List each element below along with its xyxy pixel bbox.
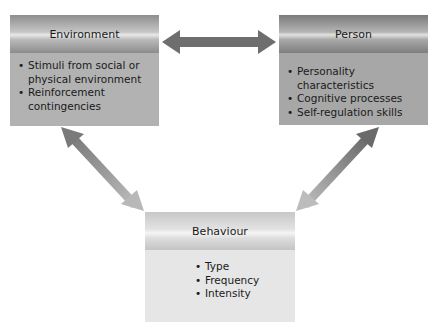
list-item: Stimuli from social or physical environm… bbox=[18, 59, 151, 86]
environment-box: Environment Stimuli from social or physi… bbox=[10, 15, 159, 126]
environment-title: Environment bbox=[10, 15, 159, 53]
behaviour-title: Behaviour bbox=[145, 212, 295, 250]
person-box: Person Personality characteristics Cogni… bbox=[279, 15, 428, 125]
list-item: Type bbox=[195, 260, 287, 274]
list-item: Frequency bbox=[195, 274, 287, 288]
behaviour-box: Behaviour Type Frequency Intensity bbox=[145, 212, 295, 322]
person-list: Personality characteristics Cognitive pr… bbox=[287, 65, 420, 119]
list-item: Cognitive processes bbox=[287, 92, 420, 106]
environment-person-arrow bbox=[162, 30, 276, 54]
list-item: Personality characteristics bbox=[287, 65, 420, 92]
list-item: Reinforcement contingencies bbox=[18, 86, 151, 113]
behaviour-list: Type Frequency Intensity bbox=[195, 260, 287, 301]
environment-behaviour-arrow bbox=[61, 127, 144, 211]
environment-list: Stimuli from social or physical environm… bbox=[18, 59, 151, 113]
person-behaviour-arrow bbox=[296, 127, 379, 211]
list-item: Self-regulation skills bbox=[287, 106, 420, 120]
list-item: Intensity bbox=[195, 287, 287, 301]
person-title: Person bbox=[279, 15, 428, 53]
